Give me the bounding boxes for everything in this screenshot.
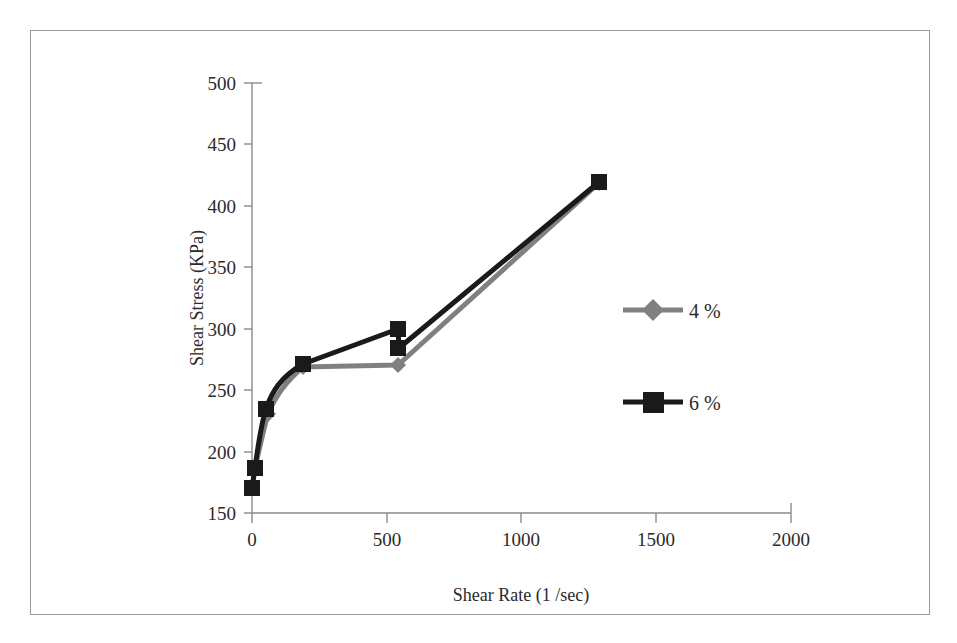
data-point-marker	[390, 340, 406, 356]
y-tick-label: 500	[208, 73, 237, 94]
legend-label-4-percent: 4 %	[689, 300, 721, 322]
y-tick-label: 300	[208, 319, 237, 340]
x-tick-label: 1000	[502, 529, 540, 550]
y-tick-label: 400	[208, 196, 237, 217]
plot-background	[31, 31, 929, 614]
x-axis-title: Shear Rate (1 /sec)	[453, 585, 589, 606]
y-axis-title: Shear Stress (KPa)	[187, 230, 208, 366]
y-tick-label: 450	[208, 134, 237, 155]
y-tick-label: 250	[208, 380, 237, 401]
legend-square-marker-icon	[643, 392, 664, 413]
data-point-marker	[295, 356, 311, 372]
x-tick-label: 0	[247, 529, 257, 550]
y-tick-label: 200	[208, 442, 237, 463]
shear-stress-vs-shear-rate-chart: 500 450 400 350 300 250 200 150 0 500	[31, 31, 929, 614]
y-tick-label: 150	[208, 503, 237, 524]
y-tick-label: 350	[208, 257, 237, 278]
x-tick-label: 500	[373, 529, 402, 550]
x-tick-label: 2000	[772, 529, 810, 550]
data-point-marker	[244, 480, 260, 496]
data-point-marker	[591, 174, 607, 190]
data-point-marker	[247, 460, 263, 476]
figure-page: 500 450 400 350 300 250 200 150 0 500	[0, 0, 957, 643]
legend-label-6-percent: 6 %	[689, 392, 721, 414]
figure-frame: 500 450 400 350 300 250 200 150 0 500	[30, 30, 930, 615]
data-point-marker	[390, 321, 406, 337]
data-point-marker	[258, 401, 274, 417]
x-tick-label: 1500	[637, 529, 675, 550]
